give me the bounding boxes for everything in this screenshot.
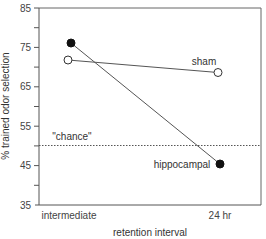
x-tick-24hr: 24 hr (209, 210, 232, 221)
hippocampal-point-intermediate (67, 39, 75, 47)
x-axis-label: retention interval (113, 227, 187, 238)
y-tick-75: 75 (20, 42, 32, 53)
series-sham: sham (64, 56, 222, 77)
y-tick-65: 65 (20, 81, 32, 92)
y-tick-85: 85 (20, 3, 32, 14)
sham-label: sham (192, 56, 216, 67)
chart: 85 75 65 55 45 35 % trained odor selecti… (0, 0, 266, 239)
sham-point-intermediate (64, 56, 72, 64)
x-tick-intermediate: intermediate (41, 210, 96, 221)
sham-point-24hr (214, 69, 222, 77)
hippocampal-label: hippocampal (154, 159, 211, 170)
y-axis-label: % trained odor selection (0, 52, 11, 159)
chance-label: "chance" (52, 131, 92, 142)
y-tick-45: 45 (20, 160, 32, 171)
y-ticks (34, 8, 39, 185)
y-tick-35: 35 (20, 200, 32, 211)
plot-frame (35, 8, 261, 205)
y-tick-55: 55 (20, 121, 32, 132)
hippocampal-point-24hr (216, 160, 224, 168)
y-tick-labels: 85 75 65 55 45 35 (20, 3, 32, 211)
